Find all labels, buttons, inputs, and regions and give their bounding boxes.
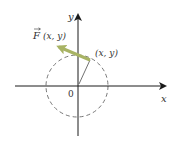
point-label: (x, y) [95,48,118,58]
vector-symbol: F [32,30,41,41]
vector-label: F (x, y) [32,28,66,41]
origin-label: 0 [68,89,74,99]
x-axis-label: x [161,93,167,104]
vector-args: (x, y) [43,31,66,41]
vector-arrow [59,47,90,60]
radius-line [79,60,90,84]
y-axis-label: y [67,11,74,22]
vector-field-diagram: y x 0 (x, y) F (x, y) [0,0,174,144]
